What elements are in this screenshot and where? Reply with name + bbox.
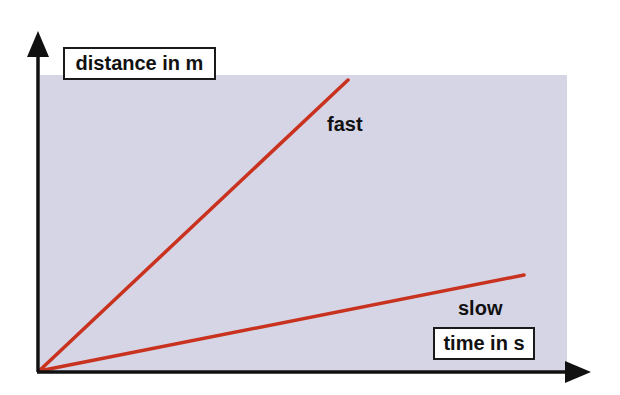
x-axis-label: time in s — [433, 327, 535, 360]
fast-label: fast — [327, 113, 363, 136]
slow-label: slow — [458, 297, 502, 320]
y-axis-label: distance in m — [63, 47, 216, 80]
y-axis-arrow-icon — [27, 31, 49, 57]
x-axis-arrow-icon — [565, 361, 591, 383]
